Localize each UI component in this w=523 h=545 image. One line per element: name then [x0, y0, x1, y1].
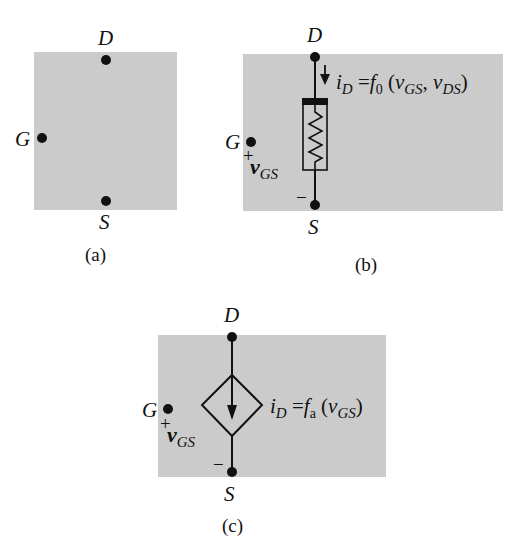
eq-lhs-sub: D: [276, 405, 287, 421]
panel-a-gate-terminal: [37, 133, 47, 143]
panel-b-gate-label: G: [225, 132, 240, 153]
panel-b-drain-terminal: [310, 52, 320, 62]
panel-b-resistor-body: [303, 104, 327, 170]
panel-c-source-terminal: [227, 467, 237, 477]
vgs-symbol: v: [250, 154, 260, 179]
panel-c-source-label: S: [224, 484, 235, 505]
panel-c-source-arrow-icon: [227, 405, 237, 420]
panel-b-equation: iD =f0 (vGS, vDS): [336, 72, 468, 97]
eq-func-sub: 0: [376, 82, 383, 97]
panel-b-source-label: S: [308, 217, 319, 238]
eq-lhs-sub: D: [342, 81, 353, 97]
eq-open-paren: (: [388, 70, 395, 94]
eq-arg1-sub: GS: [337, 405, 355, 421]
panel-c-vgs-minus: −: [213, 455, 224, 474]
panel-b-source-terminal: [310, 200, 320, 210]
panel-a-source-label: S: [99, 212, 110, 233]
panel-a-gate-label: G: [15, 129, 30, 150]
eq-equals: =: [358, 70, 370, 94]
eq-close-paren: ): [461, 70, 468, 94]
panel-b-caption: (b): [355, 255, 377, 274]
panel-c-equation: iD =fa (vGS): [270, 396, 363, 421]
panel-b-drain-label: D: [307, 25, 322, 46]
eq-func-sub: a: [310, 406, 316, 421]
panel-a-drain-label: D: [98, 28, 113, 49]
panel-a-drain-terminal: [101, 55, 111, 65]
vgs-symbol: v: [167, 422, 177, 447]
panel-c-drain-label: D: [224, 305, 239, 326]
panel-b-vgs-label: vGS: [250, 156, 278, 182]
panel-a-caption: (a): [85, 245, 106, 264]
eq-comma: ,: [423, 70, 428, 94]
eq-close-paren: ): [356, 394, 363, 418]
eq-arg2-sub: DS: [442, 81, 460, 97]
vgs-subscript: GS: [260, 166, 278, 182]
vgs-subscript: GS: [177, 434, 195, 450]
eq-equals: =: [292, 394, 304, 418]
panel-c-gate-label: G: [142, 400, 157, 421]
panel-c-drain-terminal: [227, 332, 237, 342]
eq-arg1: v: [395, 70, 404, 94]
eq-arg2: v: [433, 70, 442, 94]
panel-b-resistor-zigzag: [309, 105, 322, 170]
panel-c-vgs-label: vGS: [167, 424, 195, 450]
panel-b-current-arrow-icon: [320, 74, 330, 85]
panel-b-vgs-minus: −: [296, 188, 307, 207]
eq-arg1-sub: GS: [404, 81, 422, 97]
panel-a-source-terminal: [101, 196, 111, 206]
panel-c-caption: (c): [222, 516, 243, 535]
